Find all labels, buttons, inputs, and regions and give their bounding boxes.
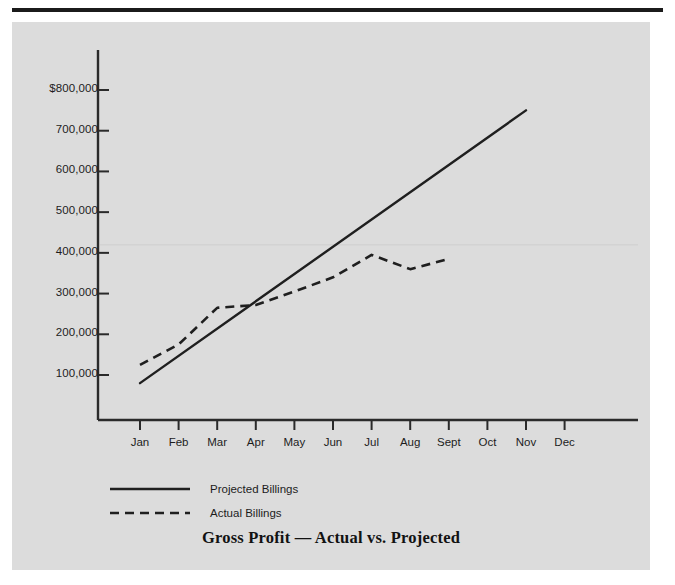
legend-key-dashed-line-icon [108, 507, 192, 519]
legend-item-actual: Actual Billings [108, 501, 438, 525]
legend-key-solid-line-icon [108, 483, 192, 495]
x-axis-tick-label: Apr [247, 436, 265, 448]
legend-item-projected: Projected Billings [108, 477, 438, 501]
legend-label-projected: Projected Billings [210, 483, 298, 495]
x-axis-tick-label: Mar [207, 436, 227, 448]
x-axis-tick-label: Oct [478, 436, 496, 448]
x-axis-tick-label: Dec [554, 436, 574, 448]
x-axis-tick-label: Nov [516, 436, 536, 448]
x-axis-tick-label: Sept [437, 436, 461, 448]
x-axis-tick-label: Feb [169, 436, 189, 448]
top-divider-rule [12, 8, 663, 12]
x-axis-tick-label: Jun [324, 436, 343, 448]
x-axis-tick-label: Jul [364, 436, 379, 448]
chart-legend: Projected Billings Actual Billings [108, 477, 438, 525]
x-axis-tick-label: Aug [400, 436, 420, 448]
chart-panel: $800,000700,000600,000500,000400,000300,… [12, 22, 650, 570]
x-axis-tick-label: Jan [131, 436, 150, 448]
x-axis-tick-label: May [284, 436, 306, 448]
chart-title: Gross Profit — Actual vs. Projected [12, 528, 650, 548]
legend-label-actual: Actual Billings [210, 507, 282, 519]
